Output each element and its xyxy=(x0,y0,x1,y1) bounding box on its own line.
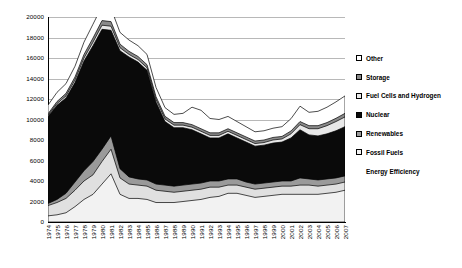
legend-item-label: Fuel Cells and Hydrogen xyxy=(366,92,441,99)
mid-gray-square-swatch xyxy=(356,131,362,137)
x-axis-tick-label: 1997 xyxy=(253,225,259,239)
dark-gray-square-swatch xyxy=(356,74,362,80)
x-axis-tick-label: 1993 xyxy=(217,225,223,239)
x-axis-tick-label: 2004 xyxy=(316,225,322,239)
stacked-area-series xyxy=(48,17,345,222)
y-axis-tick-label: 10000 xyxy=(26,116,44,122)
legend-item[interactable]: Fuel Cells and Hydrogen xyxy=(356,87,460,106)
x-axis-tick-label: 1980 xyxy=(100,225,106,239)
x-axis-tick-label: 1975 xyxy=(55,225,61,239)
y-axis-tick-label: 6000 xyxy=(30,157,44,163)
x-axis-tick-label: 1996 xyxy=(244,225,250,239)
x-axis-tick-label: 2002 xyxy=(298,225,304,239)
black-square-swatch xyxy=(356,112,362,118)
x-axis-tick-label: 1984 xyxy=(136,225,142,239)
x-axis-tick-labels: 1974197519761977197819791980198119821983… xyxy=(48,225,345,265)
y-axis-tick-label: 0 xyxy=(40,219,44,225)
x-axis-tick-label: 1985 xyxy=(145,225,151,239)
y-axis-tick-label: 16000 xyxy=(26,55,44,61)
light-gray-square-swatch xyxy=(356,93,362,99)
x-axis-tick-label: 1974 xyxy=(46,225,52,239)
x-axis-tick-label: 2005 xyxy=(325,225,331,239)
x-axis-tick-label: 1989 xyxy=(181,225,187,239)
x-axis-tick-label: 1992 xyxy=(208,225,214,239)
y-axis-tick-label: 20000 xyxy=(26,14,44,20)
x-axis-tick-label: 2000 xyxy=(280,225,286,239)
x-axis-line xyxy=(48,222,346,223)
y-axis-tick-label: 14000 xyxy=(26,75,44,81)
x-axis-tick-label: 1998 xyxy=(262,225,268,239)
y-axis-tick-label: 2000 xyxy=(30,198,44,204)
x-axis-tick-label: 1978 xyxy=(82,225,88,239)
x-axis-tick-label: 1999 xyxy=(271,225,277,239)
y-axis-tick-label: 18000 xyxy=(26,34,44,40)
legend-item[interactable]: Nuclear xyxy=(356,105,460,124)
x-axis-tick-label: 1983 xyxy=(127,225,133,239)
chart-legend: OtherStorageFuel Cells and HydrogenNucle… xyxy=(356,49,460,181)
x-axis-tick-label: 1987 xyxy=(163,225,169,239)
legend-item-label: Renewables xyxy=(366,130,403,137)
x-axis-tick-label: 1977 xyxy=(73,225,79,239)
white-square-swatch xyxy=(356,55,362,61)
legend-item-label: Storage xyxy=(366,74,390,81)
x-axis-tick-label: 1988 xyxy=(172,225,178,239)
x-axis-tick-label: 1995 xyxy=(235,225,241,239)
y-axis-tick-label: 8000 xyxy=(30,137,44,143)
legend-item-label: Fossil Fuels xyxy=(366,149,403,156)
legend-item[interactable]: Energy Efficiency xyxy=(356,162,460,181)
x-axis-tick-label: 2003 xyxy=(307,225,313,239)
legend-item-label: Other xyxy=(366,55,383,62)
plot-area: 0200040006000800010000120001400016000180… xyxy=(48,17,345,222)
legend-item[interactable]: Other xyxy=(356,49,460,68)
x-axis-tick-label: 1986 xyxy=(154,225,160,239)
y-axis-tick-label: 4000 xyxy=(30,178,44,184)
legend-item[interactable]: Fossil Fuels xyxy=(356,143,460,162)
x-axis-tick-label: 1976 xyxy=(64,225,70,239)
x-axis-tick-label: 1990 xyxy=(190,225,196,239)
x-axis-tick-label: 1979 xyxy=(91,225,97,239)
x-axis-tick-label: 1991 xyxy=(199,225,205,239)
x-axis-tick-label: 2001 xyxy=(289,225,295,239)
y-axis-tick-label: 12000 xyxy=(26,96,44,102)
x-axis-tick-label: 2007 xyxy=(343,225,349,239)
chart-figure: 0200040006000800010000120001400016000180… xyxy=(0,0,462,268)
legend-item[interactable]: Renewables xyxy=(356,124,460,143)
x-axis-tick-label: 1981 xyxy=(109,225,115,239)
x-axis-tick-label: 2006 xyxy=(334,225,340,239)
pale-gray-square-swatch xyxy=(356,149,362,155)
legend-item-label: Energy Efficiency xyxy=(366,168,420,175)
no-swatch xyxy=(356,168,362,174)
x-axis-tick-label: 1994 xyxy=(226,225,232,239)
legend-item-label: Nuclear xyxy=(366,111,389,118)
legend-item[interactable]: Storage xyxy=(356,68,460,87)
x-axis-tick-label: 1982 xyxy=(118,225,124,239)
